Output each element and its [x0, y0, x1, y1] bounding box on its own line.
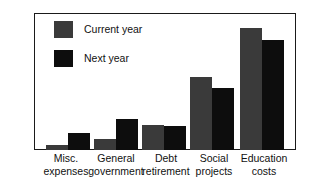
bar-group-general-government: [94, 13, 138, 150]
x-axis-label-education-costs-line1: Education: [241, 152, 288, 164]
bar-group-debt-retirement: [142, 13, 186, 150]
bar-education-costs-next-year: [262, 40, 284, 150]
bar-group-education-costs: [240, 13, 284, 150]
bar-social-projects-current-year: [190, 77, 212, 150]
bar-debt-retirement-current-year: [142, 125, 164, 150]
x-axis-label-debt-retirement-line1: Debt: [155, 152, 177, 164]
x-axis-label-education-costs-line2: costs: [226, 165, 302, 178]
bar-social-projects-next-year: [212, 88, 234, 150]
x-axis: Misc. expenses General government Debt r…: [34, 152, 296, 189]
bar-group-misc-expenses: [46, 13, 90, 150]
bars-layer: [34, 13, 296, 150]
bar-debt-retirement-next-year: [164, 126, 186, 150]
bar-chart: 50 40 30 20 10 Current year Next year: [0, 0, 312, 189]
bar-education-costs-current-year: [240, 28, 262, 150]
bar-general-government-current-year: [94, 139, 116, 150]
bar-group-social-projects: [190, 13, 234, 150]
bar-general-government-next-year: [116, 119, 138, 150]
bar-misc-expenses-next-year: [68, 133, 90, 150]
x-axis-label-misc-expenses-line1: Misc.: [54, 152, 79, 164]
x-axis-label-education-costs: Education costs: [226, 152, 302, 178]
bar-misc-expenses-current-year: [46, 145, 68, 150]
y-axis: 50 40 30 20 10: [0, 0, 34, 189]
x-axis-label-social-projects-line1: Social: [200, 152, 229, 164]
